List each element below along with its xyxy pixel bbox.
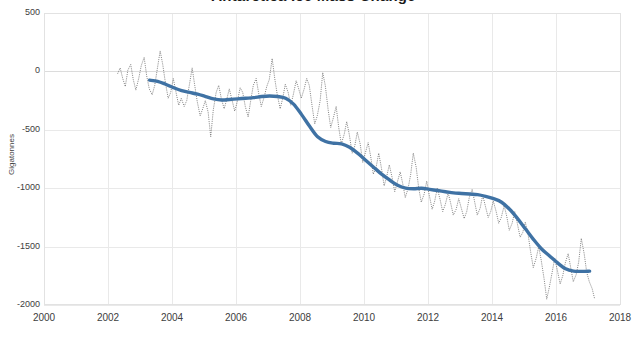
- x-axis-tick-label: 2004: [147, 313, 197, 323]
- x-axis-tick-label: 2002: [83, 313, 133, 323]
- gridlines: [44, 13, 621, 306]
- x-axis-tick-label: 2008: [275, 313, 325, 323]
- x-axis-tick-label: 2000: [19, 313, 69, 323]
- x-axis-tick-label: 2018: [595, 313, 636, 323]
- x-axis-tick-label: 2006: [211, 313, 261, 323]
- plot-border: [45, 14, 621, 305]
- x-axis-tick-label: 2012: [403, 313, 453, 323]
- x-axis-tick-label: 2010: [339, 313, 389, 323]
- series-smoothed-trend: [150, 80, 590, 271]
- x-axis-tick-label: 2016: [531, 313, 581, 323]
- series-monthly-anomaly: [118, 51, 595, 299]
- x-axis-tick-label: 2014: [467, 313, 517, 323]
